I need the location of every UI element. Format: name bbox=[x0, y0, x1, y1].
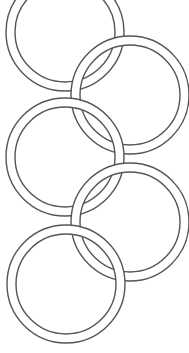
ring-3 bbox=[11, 103, 120, 212]
rings-graphic bbox=[0, 0, 189, 353]
ring-5 bbox=[12, 230, 121, 339]
ring-4 bbox=[76, 168, 185, 277]
ring-2 bbox=[76, 41, 185, 150]
interlocking-rings-figure bbox=[0, 0, 189, 353]
